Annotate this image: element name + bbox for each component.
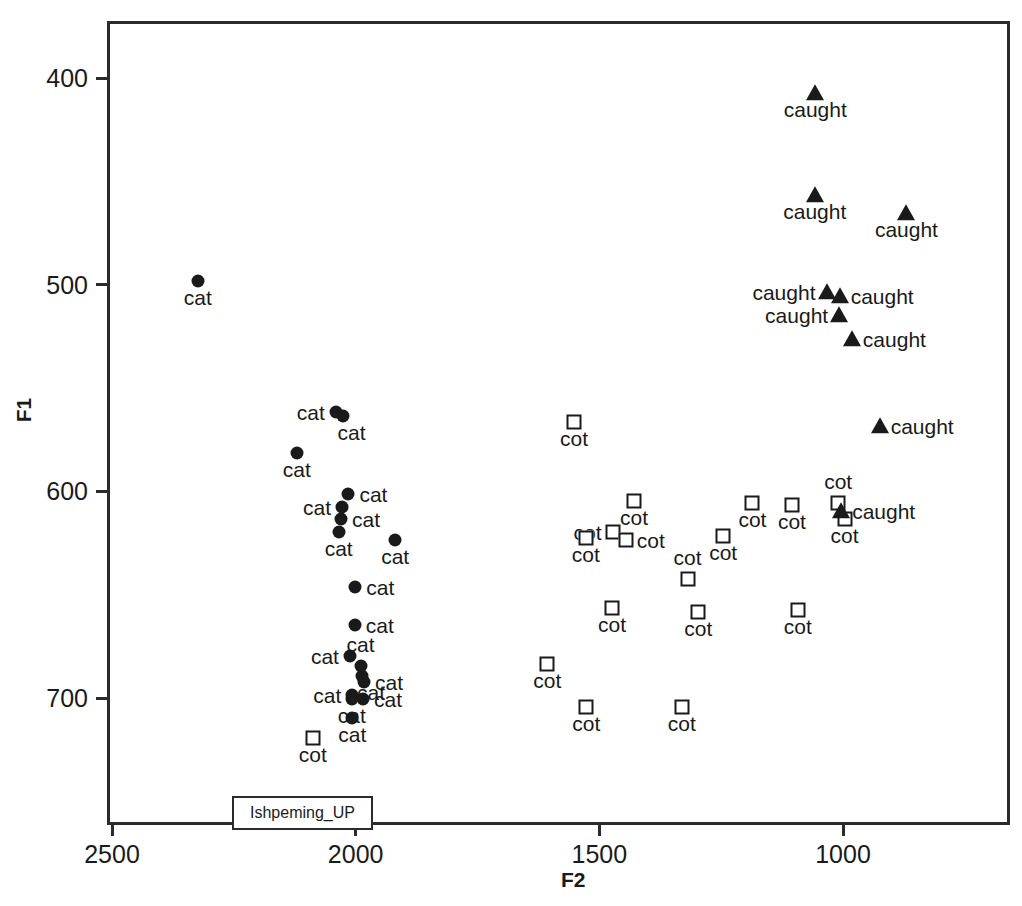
data-point-label: cot	[560, 428, 588, 449]
filled-triangle-marker-icon	[843, 331, 861, 347]
filled-circle-marker-icon	[335, 513, 348, 526]
data-point-label: cat	[366, 577, 394, 598]
data-point-label: cot	[572, 544, 600, 565]
x-axis-tick-label: 1500	[544, 842, 654, 867]
data-point-label: cat	[325, 538, 353, 559]
data-point-label: cot	[778, 511, 806, 532]
x-axis-tick-label: 2500	[57, 842, 167, 867]
data-point-label: cot	[684, 618, 712, 639]
data-point-label: cat	[381, 546, 409, 567]
open-square-marker-icon	[680, 572, 695, 587]
data-point-label: cat	[184, 287, 212, 308]
y-axis-tick-mark	[96, 697, 107, 700]
data-point-label: caught	[852, 500, 915, 521]
data-point-label: cot	[299, 744, 327, 765]
x-axis-tick-label: 1000	[788, 842, 898, 867]
data-point-label: cat	[303, 496, 331, 517]
x-axis-tick-label: 2000	[301, 842, 411, 867]
y-axis-tick-label: 400	[20, 66, 88, 91]
y-axis-tick-label: 700	[20, 686, 88, 711]
data-point-label: cot	[637, 529, 665, 550]
data-point-label: caught	[783, 201, 846, 222]
open-square-marker-icon	[618, 532, 633, 547]
data-point-label: cat	[347, 634, 375, 655]
data-point-label: caught	[875, 219, 938, 240]
data-point-label: cot	[674, 547, 702, 568]
data-point-label: cot	[598, 614, 626, 635]
filled-circle-marker-icon	[349, 581, 362, 594]
y-axis-tick-mark	[96, 283, 107, 286]
filled-circle-marker-icon	[358, 676, 371, 689]
data-point-label: cat	[297, 401, 325, 422]
data-point-label: cot	[572, 713, 600, 734]
data-point-label: cot	[831, 525, 859, 546]
y-axis-tick-label: 500	[20, 273, 88, 298]
filled-circle-marker-icon	[357, 692, 370, 705]
filled-triangle-marker-icon	[832, 502, 850, 518]
filled-circle-marker-icon	[336, 500, 349, 513]
legend: Ishpeming_UP	[232, 796, 373, 830]
data-point-label: cot	[738, 509, 766, 530]
filled-triangle-marker-icon	[871, 417, 889, 433]
data-point-label: cot	[620, 507, 648, 528]
plot-area: catcatcatcatcatcatcatcatcatcatcatcatcatc…	[107, 21, 1010, 825]
data-point-label: caught	[784, 99, 847, 120]
filled-circle-marker-icon	[348, 618, 361, 631]
data-point-label: cat	[352, 509, 380, 530]
x-axis-tick-mark	[111, 825, 114, 836]
data-point-label: caught	[863, 329, 926, 350]
data-point-label: cat	[374, 688, 402, 709]
vowel-formant-scatter-plot: F1 F2 4005006007002500200015001000 catca…	[0, 0, 1022, 906]
data-point-label: cot	[824, 471, 852, 492]
data-point-label: caught	[851, 285, 914, 306]
data-point-label: cat	[338, 724, 366, 745]
filled-circle-marker-icon	[342, 488, 355, 501]
y-axis-tick-label: 600	[20, 479, 88, 504]
x-axis-title: F2	[561, 868, 586, 892]
data-point-label: cot	[784, 616, 812, 637]
y-axis-title: F1	[12, 380, 36, 440]
x-axis-tick-mark	[842, 825, 845, 836]
filled-triangle-marker-icon	[830, 306, 848, 322]
data-point-label: caught	[891, 416, 954, 437]
y-axis-tick-mark	[96, 490, 107, 493]
data-point-label: cot	[709, 542, 737, 563]
data-point-label: cot	[533, 670, 561, 691]
data-point-label: cat	[283, 459, 311, 480]
data-point-label: caught	[752, 281, 815, 302]
filled-triangle-marker-icon	[831, 287, 849, 303]
data-point-label: cat	[313, 684, 341, 705]
x-axis-tick-mark	[598, 825, 601, 836]
data-point-label: cat	[338, 422, 366, 443]
data-point-label: cat	[311, 645, 339, 666]
y-axis-tick-mark	[96, 77, 107, 80]
data-point-label: caught	[765, 304, 828, 325]
data-point-label: cot	[668, 713, 696, 734]
data-point-label: cat	[359, 484, 387, 505]
